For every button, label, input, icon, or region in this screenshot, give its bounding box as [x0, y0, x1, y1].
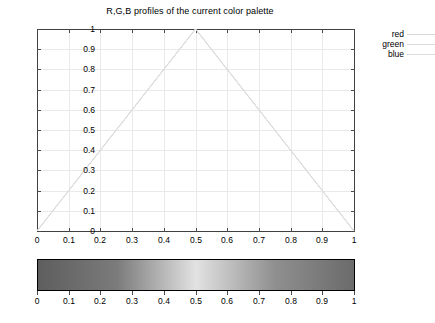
- x-axis-tick-label: 0.1: [54, 235, 84, 245]
- legend-label-blue: blue: [388, 49, 407, 59]
- palette-tick: [132, 291, 133, 295]
- y-axis-tick-label: 0.3: [65, 165, 95, 175]
- palette-tick-label: 0.5: [181, 296, 211, 306]
- palette-tick-label: 0.8: [276, 296, 306, 306]
- palette-tick-label: 0.7: [244, 296, 274, 306]
- legend-label-red: red: [392, 29, 407, 39]
- y-axis-tick-label: 0.1: [65, 206, 95, 216]
- palette-tick-label: 0: [22, 296, 52, 306]
- palette-tick-label: 0.6: [212, 296, 242, 306]
- page-title: R,G,B profiles of the current color pale…: [0, 6, 380, 16]
- palette-axis: 00.10.20.30.40.50.60.70.80.91: [37, 291, 355, 311]
- x-axis-tick-label: 0.2: [85, 235, 115, 245]
- x-axis-tick-label: 0.8: [276, 235, 306, 245]
- y-axis-tick-label: 0.6: [65, 105, 95, 115]
- palette-tick: [227, 291, 228, 295]
- y-axis-tick-label: 0.4: [65, 145, 95, 155]
- palette-tick-label: 0.4: [149, 296, 179, 306]
- palette-preview: [37, 259, 355, 291]
- y-axis-tick-label: 0.9: [65, 44, 95, 54]
- legend-item-blue[interactable]: blue: [358, 49, 435, 59]
- palette-tick: [37, 291, 38, 295]
- legend-swatch-green: [407, 44, 435, 45]
- x-axis-tick-label: 0.5: [181, 235, 211, 245]
- palette-tick: [69, 291, 70, 295]
- y-axis-tick-label: 1: [65, 24, 95, 34]
- palette-tick-label: 0.2: [85, 296, 115, 306]
- palette-tick: [196, 291, 197, 295]
- palette-tick: [259, 291, 260, 295]
- legend-swatch-red: [407, 34, 435, 35]
- x-axis-tick-label: 0.6: [212, 235, 242, 245]
- palette-gradient-bar: [37, 259, 355, 291]
- x-axis-tick-label: 0.4: [149, 235, 179, 245]
- palette-tick: [291, 291, 292, 295]
- palette-tick: [100, 291, 101, 295]
- legend-label-green: green: [382, 39, 407, 49]
- y-axis-tick-label: 0.8: [65, 64, 95, 74]
- x-axis-tick-label: 0.3: [117, 235, 147, 245]
- x-axis-tick-label: 1: [339, 235, 369, 245]
- palette-tick: [164, 291, 165, 295]
- legend-item-green[interactable]: green: [358, 39, 435, 49]
- x-axis-tick-label: 0.7: [244, 235, 274, 245]
- palette-tick-label: 0.1: [54, 296, 84, 306]
- palette-tick-label: 0.9: [307, 296, 337, 306]
- y-axis-tick-label: 0.2: [65, 186, 95, 196]
- y-axis-tick-label: 0.5: [65, 125, 95, 135]
- palette-tick: [322, 291, 323, 295]
- legend: redgreenblue: [358, 29, 435, 59]
- chart-page: R,G,B profiles of the current color pale…: [0, 0, 435, 323]
- palette-tick-label: 1: [339, 296, 369, 306]
- palette-tick: [354, 291, 355, 295]
- palette-tick-label: 0.3: [117, 296, 147, 306]
- x-axis-tick-label: 0.9: [307, 235, 337, 245]
- legend-swatch-blue: [407, 54, 435, 55]
- x-axis-tick-label: 0: [22, 235, 52, 245]
- legend-item-red[interactable]: red: [358, 29, 435, 39]
- y-axis-tick-label: 0.7: [65, 85, 95, 95]
